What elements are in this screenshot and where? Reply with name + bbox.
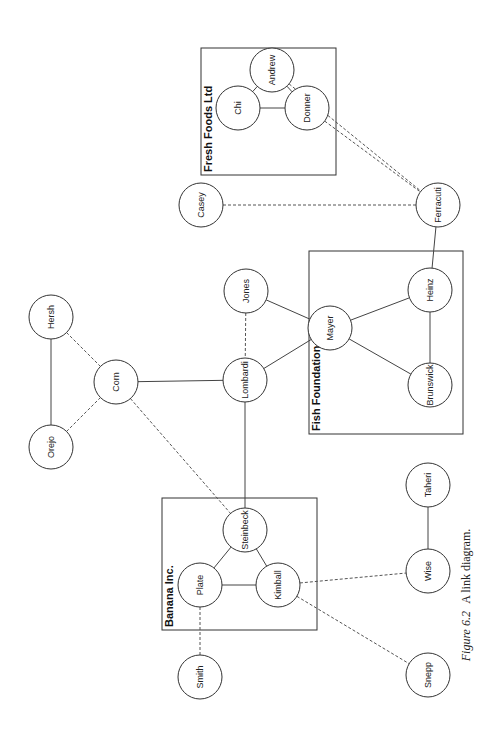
group-label: Fish Foundation	[310, 345, 322, 431]
node-label: Andrew	[267, 54, 277, 85]
node-kimball[interactable]: Kimball	[256, 563, 300, 607]
node-label: Steinbeck	[240, 510, 250, 550]
node-casey[interactable]: Casey	[179, 183, 223, 227]
edge-donner-ferracuti	[325, 121, 421, 192]
node-label: Snepp	[423, 662, 433, 688]
node-smith[interactable]: Smith	[178, 655, 222, 699]
node-label: Kimball	[273, 570, 283, 600]
node-label: Brunswick	[425, 364, 435, 406]
group-label: Fresh Foods Ltd	[202, 86, 214, 172]
node-ferracuti[interactable]: Ferracuti	[416, 183, 460, 227]
edge-andrew-chi	[253, 86, 258, 91]
node-label: Jones	[241, 278, 251, 303]
node-orejo[interactable]: Orejo	[29, 425, 73, 469]
node-heinz[interactable]: Heinz	[408, 268, 452, 312]
node-label: Hersh	[46, 305, 56, 329]
node-label: Wise	[423, 561, 433, 581]
node-label: Heinz	[425, 278, 435, 302]
edge-corn-steinbeck	[130, 399, 230, 514]
node-corn[interactable]: Corn	[94, 360, 138, 404]
node-lombardi[interactable]: Lombardi	[223, 358, 267, 402]
node-hersh[interactable]: Hersh	[29, 295, 73, 339]
node-chi[interactable]: Chi	[216, 86, 260, 130]
node-donner[interactable]: Donner	[285, 86, 329, 130]
edge-steinbeck-plate	[214, 547, 231, 568]
edge-jones-mayer	[266, 300, 310, 319]
edge-ferracuti-heinz	[432, 227, 436, 268]
edge-steinbeck-kimball	[256, 549, 266, 566]
node-label: Orejo	[46, 436, 56, 458]
node-snepp[interactable]: Snepp	[406, 653, 450, 697]
nodes-layer: AndrewChiDonnerCaseyFerracutiJonesMayerH…	[29, 48, 460, 699]
node-label: Corn	[111, 372, 121, 392]
node-label: Donner	[302, 93, 312, 123]
edge-hersh-corn	[67, 333, 101, 367]
group-label: Banana Inc.	[163, 565, 175, 627]
node-label: Casey	[196, 192, 206, 218]
edge-andrew-donner	[287, 86, 292, 92]
node-taheri[interactable]: Taheri	[406, 463, 450, 507]
link-diagram: Fresh Foods LtdFish FoundationBanana Inc…	[0, 0, 499, 753]
node-mayer[interactable]: Mayer	[308, 306, 352, 350]
caption-figure-label: Figure 6.2	[459, 611, 473, 662]
edge-mayer-brunswick	[349, 339, 411, 374]
figure-caption: Figure 6.2 A link diagram.	[459, 529, 473, 663]
node-jones[interactable]: Jones	[224, 269, 268, 313]
edge-kimball-wise	[300, 573, 406, 583]
edge-corn-lombardi	[138, 380, 223, 381]
node-plate[interactable]: Plate	[178, 563, 222, 607]
node-label: Lombardi	[240, 361, 250, 399]
node-label: Chi	[233, 101, 243, 115]
node-label: Ferracuti	[433, 187, 443, 223]
node-steinbeck[interactable]: Steinbeck	[223, 508, 267, 552]
caption-text: A link diagram.	[459, 529, 473, 604]
node-brunswick[interactable]: Brunswick	[408, 363, 452, 407]
edge-lombardi-mayer	[264, 339, 311, 368]
node-label: Taheri	[423, 473, 433, 498]
node-andrew[interactable]: Andrew	[250, 48, 294, 92]
node-wise[interactable]: Wise	[406, 549, 450, 593]
edge-orejo-corn	[67, 398, 101, 432]
node-label: Plate	[195, 575, 205, 596]
node-label: Mayer	[325, 315, 335, 340]
edge-mayer-heinz	[351, 298, 410, 320]
svg-text:Figure 6.2 A link diagra: Figure 6.2 A link diagram.	[459, 529, 473, 663]
edge-jones-lombardi	[245, 313, 246, 358]
node-label: Smith	[195, 665, 205, 688]
